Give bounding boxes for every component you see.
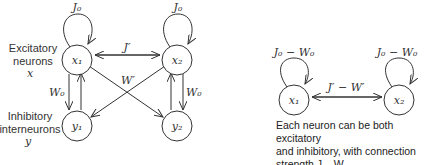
label-j0-w0-x1: J₀ − W₀ <box>272 46 315 59</box>
right-diagram: x₁ x₂ J₀ − W₀ J₀ − W₀ J′ − W′ <box>272 46 418 115</box>
label-jprime-wprime: J′ − W′ <box>326 81 365 94</box>
node-right-x2-label: x₂ <box>394 94 405 107</box>
caption-line-2: and inhibitory, with connection <box>276 145 428 158</box>
node-x1-label: x₁ <box>72 54 83 67</box>
left-diagram: x₁ x₂ y₁ y₂ J₀ J₀ J′ W′ W₀ W₀ Excitatory… <box>0 1 202 148</box>
self-loop-right-x2 <box>386 58 414 87</box>
right-diagram-caption: Each neuron can be both excitatory and i… <box>276 119 428 165</box>
label-j0-x1: J₀ <box>71 1 82 14</box>
inhibitory-label-var: y <box>24 135 32 148</box>
node-right-x1-label: x₁ <box>289 94 300 107</box>
self-loop-x1 <box>64 14 93 47</box>
node-x2-label: x₂ <box>172 54 183 67</box>
self-loop-x2 <box>164 14 193 47</box>
excitatory-label-var: x <box>27 67 34 80</box>
excitatory-label-line1: Excitatory <box>9 42 58 54</box>
inhibitory-label-line2: interneurons <box>0 123 61 135</box>
caption-line-1: Each neuron can be both excitatory <box>276 119 428 145</box>
self-loop-right-x1 <box>281 58 309 87</box>
node-y2-label: y₂ <box>171 120 183 133</box>
excitatory-label-line2: neurons <box>13 55 53 67</box>
label-w0-left: W₀ <box>49 86 65 99</box>
inhibitory-label-line1: Inhibitory <box>8 110 53 122</box>
label-w0-right: W₀ <box>186 86 202 99</box>
caption-line-3: strength J – W <box>276 158 428 165</box>
node-y1-label: y₁ <box>71 120 83 133</box>
label-j0-w0-x2: J₀ − W₀ <box>375 46 418 59</box>
label-j-prime: J′ <box>122 41 131 54</box>
label-w-prime: W′ <box>121 74 135 87</box>
label-j0-x2: J₀ <box>172 1 183 14</box>
